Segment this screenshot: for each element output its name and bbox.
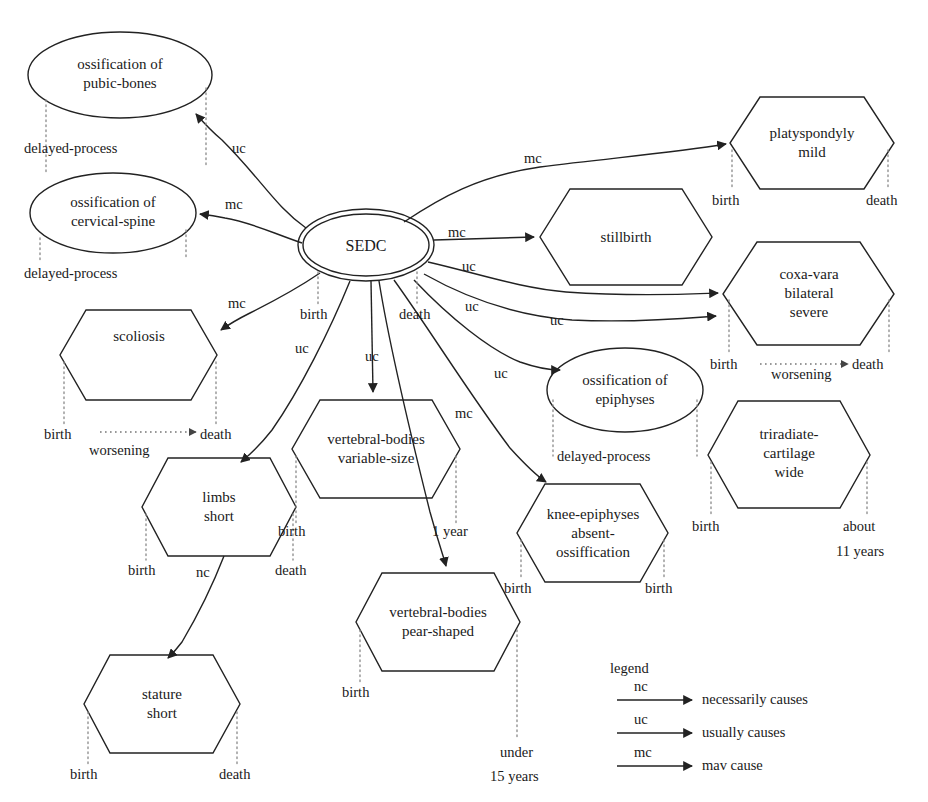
timeline-label-stature-birth: birth — [70, 766, 97, 783]
timeline-label-vbps-years: 15 years — [490, 768, 539, 785]
edge-sedc-to-ossification-epiphyses — [414, 280, 560, 370]
edge-sedc-to-ossification-cervical-spine — [200, 214, 302, 243]
legend-code-mc: mc — [634, 744, 652, 761]
timeline-label-vbps-birth: birth — [342, 684, 369, 701]
timeline-label-platyspondyly-death: death — [866, 192, 897, 209]
edge-label-uc-triradiate: uc — [465, 298, 479, 315]
timeline-label-cervical-delayed-process: delayed-process — [24, 265, 117, 282]
edge-label-mc-cervical: mc — [225, 196, 243, 213]
node-shape-ossification-epiphyses — [547, 348, 703, 432]
edge-label-uc-pubic: uc — [232, 140, 246, 157]
timeline-label-pubic-delayed-process: delayed-process — [24, 140, 117, 157]
timeline-label-vbps-under: under — [500, 744, 533, 761]
legend-text-mc: mav cause — [702, 757, 763, 774]
timeline-label-knee-birth-right: birth — [645, 580, 672, 597]
timeline-label-triradiate-about: about — [843, 518, 875, 535]
edge-label-nc-stature: nc — [196, 564, 210, 581]
timeline-label-coxa-vara-death: death — [852, 356, 883, 373]
edge-label-uc-limbs: uc — [295, 340, 309, 357]
edge-sedc-to-limbs-short — [241, 281, 350, 462]
node-shape-limbs-short — [142, 458, 296, 556]
node-shape-vertebral-bodies-pear-shaped — [356, 573, 520, 671]
node-shape-stature-short — [84, 655, 240, 753]
node-shape-coxa-vara-bilateral-severe — [723, 242, 894, 345]
timeline-label-epiphyses-delayed-process: delayed-process — [557, 448, 650, 465]
edge-label-uc-vbvs: uc — [365, 348, 379, 365]
node-shape-scoliosis — [60, 310, 217, 400]
node-shape-sedc-inner — [303, 214, 429, 276]
edge-label-uc-coxavara: uc — [462, 258, 476, 275]
timeline-label-sedc-birth: birth — [300, 306, 327, 323]
timeline-label-coxa-vara-birth: birth — [710, 356, 737, 373]
diagram-canvas: ossification of pubic-bones ossification… — [0, 0, 928, 802]
node-shape-platyspondyly-mild — [730, 97, 894, 189]
timeline-label-coxa-vara-worsening: worsening — [771, 366, 831, 383]
timeline-label-sedc-death: death — [399, 306, 430, 323]
legend-text-uc: usually causes — [702, 724, 785, 741]
timeline-label-scoliosis-death: death — [200, 426, 231, 443]
timeline-label-vbvs-birth: birth — [278, 523, 305, 540]
legend-title: legend — [610, 660, 649, 677]
node-shape-triradiate-cartilage-wide — [708, 401, 870, 508]
node-shape-stillbirth — [540, 189, 712, 285]
diagram-vector-layer — [0, 0, 928, 802]
timeline-label-triradiate-birth: birth — [692, 518, 719, 535]
legend-code-uc: uc — [634, 711, 648, 728]
edge-label-mc-scoliosis: mc — [228, 295, 246, 312]
timeline-label-scoliosis-birth: birth — [44, 426, 71, 443]
timeline-label-limbs-death: death — [275, 562, 306, 579]
timeline-label-platyspondyly-birth: birth — [712, 192, 739, 209]
timeline-label-triradiate-years: 11 years — [836, 543, 884, 560]
edge-label-mc-platyspondyly: mc — [524, 150, 542, 167]
timeline-label-knee-birth-left: birth — [504, 580, 531, 597]
timeline-label-limbs-birth: birth — [128, 562, 155, 579]
edge-sedc-to-ossification-pubic-bones — [196, 114, 306, 228]
node-shape-vertebral-bodies-variable-size — [292, 400, 460, 498]
node-shape-knee-epiphyses-absent-ossification — [517, 484, 668, 582]
timeline-label-vbvs-1year: 1 year — [432, 523, 468, 540]
edge-sedc-to-platyspondyly-mild — [404, 144, 726, 222]
timeline-label-stature-death: death — [219, 766, 250, 783]
legend-code-nc: nc — [634, 678, 648, 695]
timeline-label-scoliosis-worsening: worsening — [89, 442, 149, 459]
edge-label-mc-stillbirth: mc — [448, 224, 466, 241]
node-shape-sedc-outer — [298, 209, 434, 281]
edge-sedc-to-vertebral-bodies-variable-size — [371, 281, 373, 392]
edge-label-uc-knee: uc — [494, 365, 508, 382]
node-shape-ossification-cervical-spine — [30, 173, 196, 253]
node-shape-ossification-pubic-bones — [28, 32, 212, 118]
edge-label-mc-vbps: mc — [455, 405, 473, 422]
edge-label-uc-epiphyses: uc — [550, 312, 564, 329]
legend-text-nc: necessarily causes — [702, 691, 808, 708]
